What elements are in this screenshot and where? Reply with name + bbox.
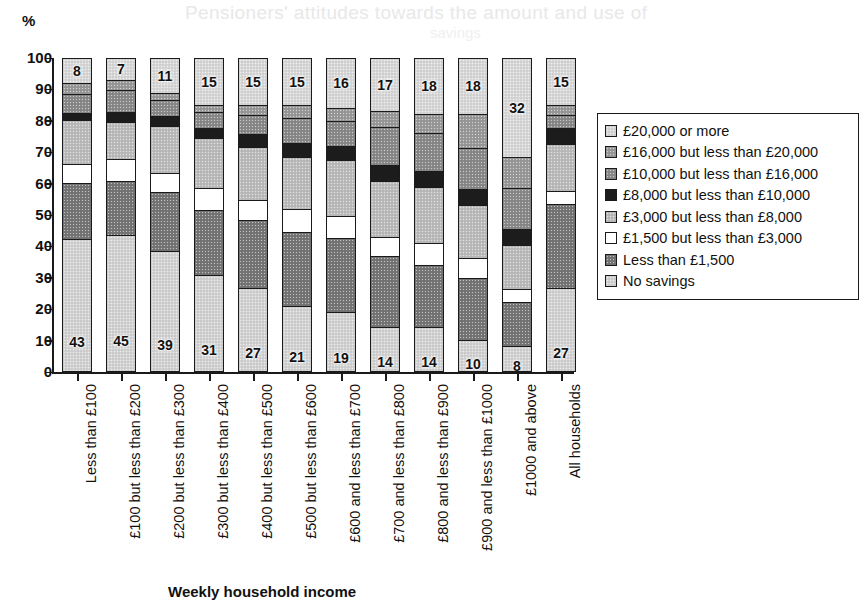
x-axis-label-11: All households bbox=[567, 384, 583, 554]
halftone-texture bbox=[107, 81, 135, 90]
bar-7: 1714 bbox=[370, 58, 400, 372]
x-axis-line bbox=[52, 372, 574, 374]
halftone-texture bbox=[371, 182, 399, 237]
halftone-texture bbox=[151, 127, 179, 173]
halftone-texture bbox=[107, 182, 135, 236]
x-tick-mark bbox=[429, 374, 431, 381]
y-tick-label: 80 bbox=[12, 112, 52, 129]
bar-segment bbox=[503, 189, 531, 230]
stacked-bar-chart-figure: Pensioners' attitudes towards the amount… bbox=[0, 0, 867, 614]
bar-segment bbox=[239, 148, 267, 201]
bar-segment bbox=[371, 238, 399, 257]
bar-segment bbox=[239, 135, 267, 148]
legend-item-2: £10,000 but less than £16,000 bbox=[605, 163, 851, 185]
bar-segment bbox=[371, 166, 399, 182]
bar-segment bbox=[327, 122, 355, 147]
legend-label: Less than £1,500 bbox=[623, 252, 734, 268]
bar-value-label: 18 bbox=[415, 79, 443, 93]
bar-value-label: 15 bbox=[547, 75, 575, 89]
halftone-texture bbox=[606, 255, 616, 265]
bar-value-label: 43 bbox=[63, 335, 91, 349]
halftone-texture bbox=[547, 205, 575, 287]
halftone-texture bbox=[503, 158, 531, 189]
bar-segment bbox=[547, 129, 575, 145]
bar-segment bbox=[195, 189, 223, 211]
bar-segment bbox=[327, 239, 355, 313]
bar-segment: 27 bbox=[547, 289, 575, 371]
halftone-texture bbox=[195, 106, 223, 112]
bar-segment bbox=[371, 257, 399, 328]
x-tick-mark bbox=[473, 374, 475, 381]
bar-segment bbox=[63, 114, 91, 121]
bar-segment bbox=[239, 201, 267, 220]
x-tick-mark bbox=[209, 374, 211, 381]
legend-label: £3,000 but less than £8,000 bbox=[623, 209, 802, 225]
bar-value-label: 17 bbox=[371, 78, 399, 92]
bar-segment bbox=[107, 160, 135, 182]
bar-value-label: 19 bbox=[327, 351, 355, 365]
halftone-texture bbox=[195, 211, 223, 275]
halftone-texture bbox=[503, 189, 531, 229]
bar-segment bbox=[239, 116, 267, 135]
y-tick-label: 90 bbox=[12, 80, 52, 97]
bar-segment: 15 bbox=[547, 59, 575, 106]
bar-segment: 7 bbox=[107, 59, 135, 81]
halftone-texture bbox=[547, 116, 575, 128]
bar-value-label: 8 bbox=[63, 64, 91, 78]
page-bleedthrough-text-2: savings bbox=[430, 24, 481, 41]
bar-segment: 14 bbox=[415, 328, 443, 371]
halftone-texture bbox=[459, 149, 487, 189]
halftone-texture bbox=[151, 101, 179, 116]
halftone-texture bbox=[107, 91, 135, 112]
bar-value-label: 31 bbox=[195, 343, 223, 357]
bar-8: 1814 bbox=[414, 58, 444, 372]
halftone-texture bbox=[503, 303, 531, 346]
bar-segment bbox=[503, 230, 531, 246]
bar-segment bbox=[327, 217, 355, 239]
bar-value-label: 27 bbox=[547, 346, 575, 360]
legend-label: £1,500 but less than £3,000 bbox=[623, 230, 802, 246]
bar-segment bbox=[547, 192, 575, 205]
bar-segment bbox=[327, 147, 355, 160]
y-tick-label: 100 bbox=[12, 49, 52, 66]
y-axis-ticks: 0102030405060708090100 bbox=[0, 0, 52, 374]
bar-segment bbox=[63, 121, 91, 165]
bar-segment bbox=[107, 182, 135, 237]
halftone-texture bbox=[415, 134, 443, 171]
y-tick-label: 40 bbox=[12, 237, 52, 254]
legend-label: £16,000 but less than £20,000 bbox=[623, 144, 818, 160]
bar-value-label: 39 bbox=[151, 338, 179, 352]
bar-segment bbox=[195, 106, 223, 113]
bar-segment: 10 bbox=[459, 341, 487, 372]
legend-item-0: £20,000 or more bbox=[605, 120, 851, 142]
bar-segment: 18 bbox=[459, 59, 487, 115]
legend-item-3: £8,000 but less than £10,000 bbox=[605, 185, 851, 207]
y-tick-label: 70 bbox=[12, 143, 52, 160]
x-axis-label-1: £100 but less than £200 bbox=[127, 384, 143, 554]
bar-segment: 43 bbox=[63, 240, 91, 371]
x-tick-mark bbox=[121, 374, 123, 381]
bar-segment bbox=[503, 303, 531, 347]
bar-value-label: 15 bbox=[239, 75, 267, 89]
bar-segment bbox=[415, 115, 443, 134]
bar-segment: 31 bbox=[195, 276, 223, 371]
x-axis-label-0: Less than £100 bbox=[83, 384, 99, 554]
halftone-texture bbox=[283, 119, 311, 143]
bar-segment bbox=[195, 211, 223, 276]
bar-segment bbox=[459, 259, 487, 278]
bar-value-label: 8 bbox=[503, 359, 531, 371]
x-axis-label-10: £1000 and above bbox=[523, 384, 539, 554]
bar-segment: 15 bbox=[195, 59, 223, 106]
legend-swatch-icon bbox=[605, 275, 617, 287]
bar-5: 1521 bbox=[282, 58, 312, 372]
bar-segment bbox=[415, 134, 443, 172]
bar-4: 1527 bbox=[238, 58, 268, 372]
bar-segment bbox=[239, 221, 267, 289]
legend-label: £20,000 or more bbox=[623, 123, 729, 139]
halftone-texture bbox=[239, 106, 267, 115]
legend-swatch-icon bbox=[605, 211, 617, 223]
bar-segment: 8 bbox=[503, 347, 531, 371]
halftone-texture bbox=[63, 184, 91, 239]
halftone-texture bbox=[195, 113, 223, 128]
bar-value-label: 32 bbox=[503, 101, 531, 115]
